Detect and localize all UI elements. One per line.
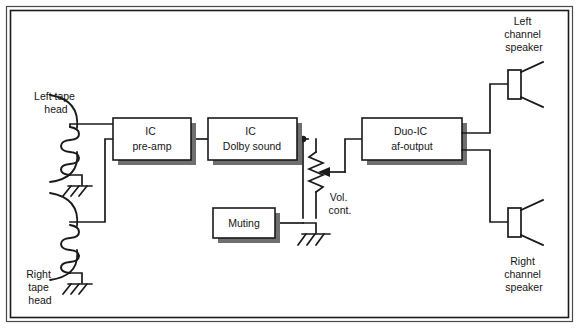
wire-duoic-to-right-speaker — [462, 150, 508, 222]
tape-head-coil — [61, 127, 79, 175]
block-ic-dolby-sound[interactable]: IC Dolby sound — [208, 118, 302, 165]
left-speaker — [508, 62, 543, 107]
wire-duoic-to-left-speaker — [462, 84, 508, 133]
wire-right-head-to-ground — [70, 273, 82, 283]
tape-head-coil-2 — [61, 225, 79, 273]
speaker-body — [508, 208, 521, 237]
speaker-horn-bottom — [521, 235, 543, 245]
block-label-muting: Muting — [228, 217, 260, 229]
left-tape-head-label: Left tape head — [34, 90, 78, 115]
ground-volume-pot — [298, 234, 330, 245]
speaker-horn-top — [521, 200, 543, 210]
block-diagram: Left tape head Right tape head — [0, 0, 579, 328]
tape-head-arc-top-2 — [50, 193, 77, 226]
speaker-horn-bottom — [521, 97, 543, 107]
wire-wiper-to-duoic — [345, 139, 362, 172]
ground-right-head — [63, 284, 92, 294]
block-duo-ic-af-output[interactable]: Duo-IC af-output — [362, 118, 467, 165]
block-ic-preamp[interactable]: IC pre-amp — [113, 118, 196, 165]
speaker-body — [508, 70, 521, 99]
ground-left-head — [63, 186, 92, 196]
wire-left-head-to-ground — [70, 175, 82, 185]
tape-head-arc-bottom-2 — [50, 250, 77, 280]
right-tape-head-label: Right tape head — [26, 268, 53, 306]
right-tape-head — [50, 139, 113, 294]
volume-control-label: Vol. cont. — [329, 191, 352, 216]
speaker-horn-top — [521, 62, 543, 72]
right-speaker — [508, 200, 543, 245]
block-muting[interactable]: Muting — [213, 208, 280, 243]
wire-pot-ground-stub — [303, 223, 316, 233]
diagram-canvas: Left tape head Right tape head — [0, 0, 579, 328]
left-speaker-label: Left channel speaker — [504, 15, 544, 53]
right-speaker-label: Right channel speaker — [504, 255, 544, 293]
tape-head-arc-bottom — [50, 152, 77, 182]
